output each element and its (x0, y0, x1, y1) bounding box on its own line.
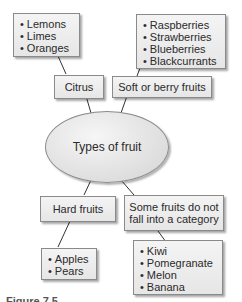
fruit-mind-map: Lemons Limes Oranges Raspberries Strawbe… (0, 0, 242, 302)
citrus-list: Lemons Limes Oranges (14, 14, 79, 58)
list-item: Kiwi (140, 245, 216, 257)
soft-fruits-category-box: Soft or berry fruits (112, 76, 212, 98)
list-item: Raspberries (143, 19, 219, 31)
list-item: Pears (48, 265, 90, 277)
list-item: Banana (140, 281, 216, 293)
center-label: Types of fruit (73, 140, 142, 154)
hard-fruits-list-box: Apples Pears (41, 248, 97, 280)
soft-fruits-list: Raspberries Strawberries Blueberries Bla… (137, 15, 225, 71)
list-item: Melon (140, 269, 216, 281)
uncategorized-list-box: Kiwi Pomegranate Melon Banana (133, 240, 223, 295)
figure-caption: Figure 7.5 (6, 295, 58, 302)
citrus-category-box: Citrus (54, 75, 104, 99)
list-item: Lemons (20, 18, 73, 30)
uncategorized-label-line2: fall into a category (129, 213, 218, 225)
list-item: Apples (48, 253, 90, 265)
uncategorized-category-box: Some fruits do not fall into a category (124, 195, 224, 231)
list-item: Limes (20, 30, 73, 42)
soft-fruits-label: Soft or berry fruits (118, 81, 205, 93)
list-item: Pomegranate (140, 257, 216, 269)
hard-fruits-list: Apples Pears (42, 249, 96, 281)
uncategorized-list: Kiwi Pomegranate Melon Banana (134, 241, 222, 297)
list-item: Strawberries (143, 31, 219, 43)
hard-fruits-label: Hard fruits (53, 203, 104, 215)
citrus-list-box: Lemons Limes Oranges (13, 13, 80, 57)
list-item: Blackcurrants (143, 55, 219, 67)
list-item: Blueberries (143, 43, 219, 55)
hard-fruits-category-box: Hard fruits (40, 196, 116, 222)
list-item: Oranges (20, 42, 73, 54)
citrus-label: Citrus (65, 81, 94, 93)
uncategorized-label-line1: Some fruits do not (129, 201, 218, 213)
center-node: Types of fruit (45, 111, 169, 183)
soft-fruits-list-box: Raspberries Strawberries Blueberries Bla… (136, 14, 226, 69)
